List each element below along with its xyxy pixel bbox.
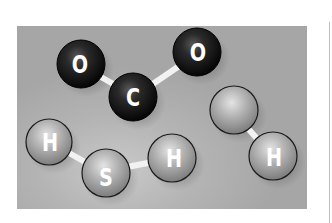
svg-text:O: O [190,39,206,67]
svg-text:H: H [42,129,58,157]
carbon-atom: C [109,73,157,121]
svg-text:O: O [72,51,88,79]
molecule-illustration: O C O H S [0,0,332,223]
hydrogen-atom: H [26,119,72,165]
svg-text:S: S [99,164,113,192]
svg-text:C: C [126,84,140,112]
divider-line [329,22,330,223]
oxygen-atom: O [173,28,221,76]
svg-text:H: H [266,144,282,172]
svg-text:H: H [166,145,182,173]
sulfur-atom: S [82,149,130,197]
unlabeled-atom [210,86,258,134]
hydrogen-atom: H [249,132,297,180]
oxygen-atom: O [57,40,105,88]
hydrogen-atom: H [148,134,196,182]
